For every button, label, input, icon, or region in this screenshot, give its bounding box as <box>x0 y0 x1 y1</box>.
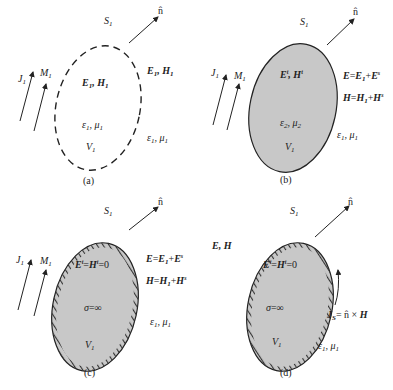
label-outside-E: E=E1+Es <box>145 253 184 266</box>
normal-arrow <box>129 207 158 230</box>
surface-s1-dashed <box>44 38 152 179</box>
label-outside-medium: ε1, μ1 <box>147 132 168 145</box>
label-n-hat: n̂ <box>158 196 163 207</box>
label-m1: M1 <box>39 67 52 80</box>
label-s1: S1 <box>104 205 113 218</box>
label-outside-medium: ε1, μ1 <box>150 316 171 329</box>
label-outside-H: H=H1+Hs <box>145 275 187 288</box>
label-inside-medium: ε1, μ1 <box>82 119 103 132</box>
label-inside-field: Et, Ht <box>279 69 303 80</box>
source-arrow-j1 <box>18 260 31 310</box>
label-v1: V1 <box>86 141 96 154</box>
caption-d: (d) <box>280 367 292 379</box>
label-outside-H: H=H1+Hs <box>342 92 384 105</box>
caption-c: (c) <box>84 367 95 379</box>
panel-b: S1 n̂ J1 M1 Et, Ht ε2, μ2 V1 E=E1+Es H=H… <box>211 6 384 186</box>
panel-a: S1 n̂ J1 M1 E1, H1 ε1, μ1 V1 E1, H1 ε1, … <box>18 5 173 187</box>
label-outside-field: E1, H1 <box>146 65 173 78</box>
surface-current-arrow <box>335 270 339 305</box>
label-s1: S1 <box>300 16 309 29</box>
source-arrow-m1 <box>34 270 46 316</box>
panel-d: S1 n̂ E, H Et=Ht=0 σ=∞ V1 JS= n̂ × H ε1,… <box>211 196 369 379</box>
label-m1: M1 <box>233 70 246 83</box>
label-n-hat: n̂ <box>348 196 353 207</box>
label-inside-field: E1, H1 <box>81 77 108 90</box>
normal-arrow <box>129 17 158 43</box>
label-j1: J1 <box>18 73 26 86</box>
label-n-hat: n̂ <box>353 6 358 17</box>
panel-c: S1 n̂ J1 M1 Et=Ht=0 σ=∞ V1 E=E1+Es H=H1+… <box>16 196 187 379</box>
source-arrow-j1 <box>213 75 226 125</box>
caption-a: (a) <box>83 175 94 187</box>
caption-b: (b) <box>280 174 292 186</box>
label-sigma: σ=∞ <box>84 302 102 313</box>
label-outside-field: E, H <box>211 240 233 251</box>
source-arrow-m1 <box>34 84 46 131</box>
label-s1: S1 <box>290 205 299 218</box>
diagram-canvas: S1 n̂ J1 M1 E1, H1 ε1, μ1 V1 E1, H1 ε1, … <box>0 0 393 390</box>
label-outside-medium: ε1, μ1 <box>318 340 339 353</box>
label-inside-field: Et=Ht=0 <box>74 259 109 270</box>
label-s1: S1 <box>104 15 113 28</box>
source-arrow-m1 <box>227 84 239 130</box>
label-j1: J1 <box>211 67 219 80</box>
normal-arrow <box>315 206 349 237</box>
label-j1: J1 <box>16 254 24 267</box>
scatterer-dielectric <box>237 35 348 180</box>
label-outside-E: E=E1+Es <box>342 70 381 83</box>
label-sigma: σ=∞ <box>266 302 284 313</box>
label-outside-medium: ε1, μ1 <box>337 129 358 142</box>
normal-arrow <box>327 19 354 45</box>
label-inside-field: Et=Ht=0 <box>262 259 297 270</box>
label-m1: M1 <box>39 255 52 268</box>
label-n-hat: n̂ <box>158 5 163 16</box>
